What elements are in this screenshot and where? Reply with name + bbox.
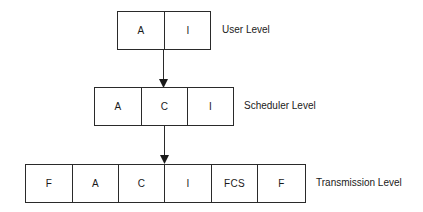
field-fcs: FCS bbox=[212, 165, 258, 202]
field-i: I bbox=[188, 88, 233, 125]
scheduler-level-frame: A C I bbox=[94, 87, 234, 126]
transmission-level-label: Transmission Level bbox=[316, 177, 402, 189]
user-level-label: User Level bbox=[222, 24, 270, 36]
arrow-user-to-scheduler bbox=[159, 49, 168, 88]
scheduler-level-label: Scheduler Level bbox=[244, 100, 316, 112]
field-f-open: F bbox=[26, 165, 73, 202]
user-level-frame: A I bbox=[117, 11, 211, 50]
field-i: I bbox=[165, 12, 211, 49]
field-c: C bbox=[119, 165, 165, 202]
arrow-scheduler-to-transmission bbox=[160, 125, 169, 164]
field-i: I bbox=[165, 165, 212, 202]
field-f-close: F bbox=[258, 165, 305, 202]
transmission-level-frame: F A C I FCS F bbox=[25, 164, 306, 203]
field-c: C bbox=[142, 88, 188, 125]
field-a: A bbox=[73, 165, 119, 202]
arrowhead-icon bbox=[160, 155, 169, 164]
field-a: A bbox=[95, 88, 142, 125]
field-a: A bbox=[118, 12, 165, 49]
